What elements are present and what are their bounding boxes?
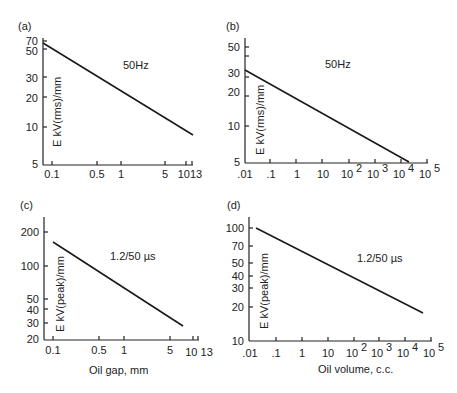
svg-text:40: 40: [232, 270, 244, 282]
panel-c-label: (c): [20, 199, 33, 211]
panel-c: (c) 200 100 50 40 30 20 0.1 0.5 1 5: [20, 199, 213, 376]
panel-a-x-ticks: 0.1 0.5 1 5 1013: [44, 161, 202, 180]
svg-text:10: 10: [367, 168, 379, 180]
svg-text:50: 50: [228, 41, 240, 53]
svg-text:10 13: 10 13: [185, 346, 213, 358]
svg-text:0.5: 0.5: [91, 344, 106, 356]
svg-text:1013: 1013: [178, 168, 202, 180]
svg-text:10: 10: [232, 335, 244, 347]
svg-text:10: 10: [322, 347, 334, 359]
svg-text:10: 10: [419, 168, 431, 180]
svg-text:10: 10: [341, 168, 353, 180]
svg-text:.01: .01: [242, 347, 257, 359]
panel-a: (a) 70 50 30 20 10 5 0.1 0.5: [18, 20, 202, 180]
panel-b: (b) 50 30 20 10 5 .01 .1 1 10 1: [226, 20, 440, 180]
panel-a-y-ticks: 70 50 30 20 10 5: [26, 35, 47, 170]
svg-text:5: 5: [162, 168, 168, 180]
panel-c-annotation: 1.2/50 µs: [110, 250, 156, 262]
svg-text:5: 5: [434, 162, 440, 174]
svg-text:1: 1: [299, 347, 305, 359]
svg-text:5: 5: [234, 156, 240, 168]
svg-text:200: 200: [21, 226, 39, 238]
svg-text:20: 20: [232, 301, 244, 313]
panel-d-annotation: 1.2/50 µs: [357, 252, 403, 264]
svg-text:10: 10: [346, 347, 358, 359]
svg-text:10: 10: [228, 120, 240, 132]
panel-a-annotation: 50Hz: [123, 59, 149, 71]
svg-text:.01: .01: [237, 168, 252, 180]
svg-text:2: 2: [361, 341, 367, 353]
svg-text:5: 5: [167, 344, 173, 356]
svg-text:50: 50: [232, 257, 244, 269]
svg-text:10: 10: [397, 347, 409, 359]
panel-d-line: [256, 228, 423, 313]
svg-text:20: 20: [228, 86, 240, 98]
svg-text:1: 1: [121, 344, 127, 356]
panel-c-x-ticks: 0.1 0.5 1 5 10 13: [45, 336, 212, 358]
panel-b-label: (b): [226, 20, 239, 32]
figure: (a) 70 50 30 20 10 5 0.1 0.5: [0, 0, 457, 393]
panel-a-y-label: E kV(rms)/mm: [51, 77, 63, 147]
svg-text:0.5: 0.5: [89, 168, 104, 180]
svg-text:1: 1: [118, 168, 124, 180]
svg-text:100: 100: [226, 222, 244, 234]
svg-text:10: 10: [423, 347, 435, 359]
svg-text:.1: .1: [266, 168, 275, 180]
svg-text:4: 4: [408, 162, 414, 174]
panel-d-x-label: Oil volume, c.c.: [318, 363, 393, 375]
panel-b-x-ticks: .01 .1 1 10 10 2 10 3 10 4 10 5: [237, 159, 440, 180]
svg-text:2: 2: [356, 162, 362, 174]
panel-d: (d) 100 70 50 40 30 20 10 .01: [226, 199, 444, 375]
panel-d-x-ticks: .01 .1 1 10 10 2 10 3 10 4 10 5: [242, 337, 444, 359]
svg-text:30: 30: [26, 72, 38, 84]
panel-b-annotation: 50Hz: [325, 58, 351, 70]
svg-text:10: 10: [371, 347, 383, 359]
svg-text:10: 10: [317, 168, 329, 180]
svg-text:30: 30: [228, 67, 240, 79]
svg-text:10: 10: [393, 168, 405, 180]
panel-b-y-ticks: 50 30 20 10 5: [228, 41, 249, 168]
panel-a-label: (a): [18, 20, 31, 32]
svg-text:5: 5: [32, 158, 38, 170]
svg-text:20: 20: [26, 92, 38, 104]
svg-text:5: 5: [438, 341, 444, 353]
svg-text:10: 10: [26, 121, 38, 133]
panel-c-x-label: Oil gap, mm: [89, 364, 148, 376]
svg-text:1: 1: [294, 168, 300, 180]
svg-text:3: 3: [382, 162, 388, 174]
panel-b-y-label: E kV(rms)/mm: [254, 85, 266, 155]
panel-c-y-label: E kV(peak)/mm: [54, 256, 66, 332]
svg-text:4: 4: [412, 341, 418, 353]
svg-text:.1: .1: [271, 347, 280, 359]
svg-text:50: 50: [26, 45, 38, 57]
panel-d-y-label: E kV(peak)/mm: [258, 253, 270, 329]
svg-text:40: 40: [27, 304, 39, 316]
svg-text:20: 20: [27, 333, 39, 345]
panel-b-line: [245, 70, 409, 162]
svg-text:0.1: 0.1: [45, 344, 60, 356]
svg-text:0.1: 0.1: [44, 168, 59, 180]
svg-text:100: 100: [21, 260, 39, 272]
panel-d-label: (d): [227, 199, 240, 211]
svg-text:70: 70: [232, 240, 244, 252]
svg-text:3: 3: [386, 341, 392, 353]
svg-text:30: 30: [27, 317, 39, 329]
svg-text:30: 30: [232, 282, 244, 294]
panel-a-line: [43, 43, 193, 135]
